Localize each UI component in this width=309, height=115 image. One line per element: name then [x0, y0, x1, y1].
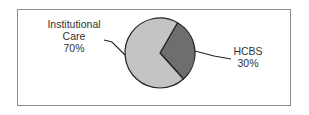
data-label-institutional-care: Institutional: [47, 18, 100, 30]
leader-line-hcbs: [195, 51, 231, 59]
leader-line-institutional-care: [104, 40, 125, 55]
pie-chart: InstitutionalCare70%HCBS30%: [0, 0, 309, 115]
data-label-institutional-care: 70%: [63, 42, 84, 54]
data-label-institutional-care: Care: [63, 30, 86, 42]
data-label-hcbs: 30%: [237, 57, 258, 69]
data-label-hcbs: HCBS: [233, 45, 262, 57]
